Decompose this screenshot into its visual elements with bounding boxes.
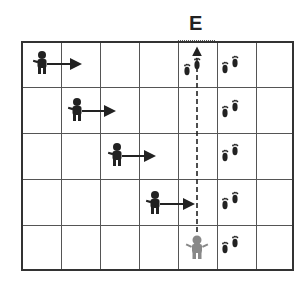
walker-1: [33, 51, 80, 74]
walker-4: [146, 191, 193, 214]
walker-3: [108, 143, 154, 166]
footprints-icon: [222, 100, 238, 117]
footprints-icon: [222, 144, 238, 161]
footprints-icon: [222, 56, 238, 73]
observer-figure: [186, 236, 209, 260]
diagram-overlay: [0, 0, 307, 283]
footprints-icon: [222, 192, 238, 209]
walker-2: [68, 98, 114, 121]
footprints-icon: [222, 236, 238, 253]
footprints-icon: [184, 58, 200, 75]
